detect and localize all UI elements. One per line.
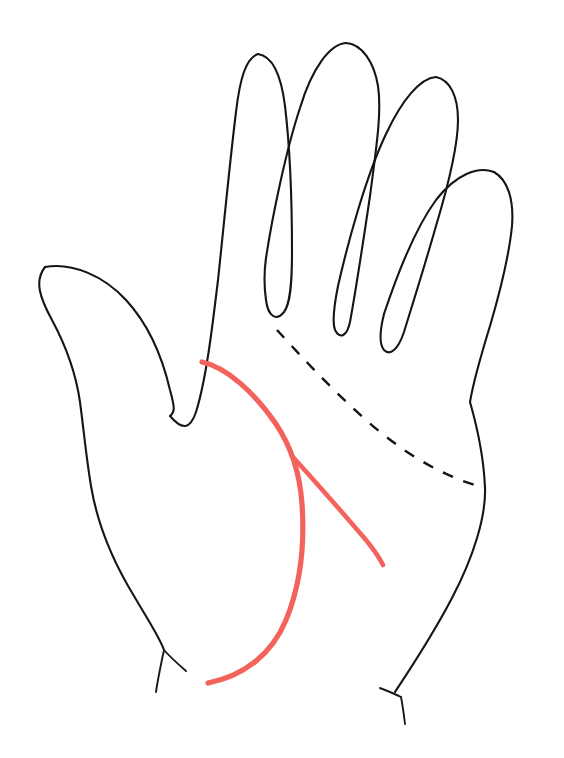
index-finger-right-edge	[258, 54, 292, 317]
middle-finger-right-edge	[334, 43, 380, 336]
pinky-finger-right-edge	[470, 172, 512, 402]
index-finger-left-edge	[170, 54, 258, 426]
life-line-red-highlight	[202, 362, 303, 683]
head-line-branch-red-highlight	[292, 456, 383, 565]
palm-right-edge	[395, 402, 485, 692]
heart-line-dashed	[277, 330, 486, 488]
wrist-tick-right-icon	[401, 697, 405, 724]
wrist-edge-left-stub	[164, 650, 186, 671]
wrist-tick-left-icon	[156, 650, 164, 692]
drawing-canvas	[0, 0, 564, 758]
ring-finger-left-edge	[338, 77, 436, 286]
ring-finger-right-edge	[381, 77, 458, 352]
thumb-upper-edge	[45, 266, 174, 416]
pinky-finger-left-edge	[384, 170, 494, 314]
palm-diagram	[0, 0, 564, 758]
